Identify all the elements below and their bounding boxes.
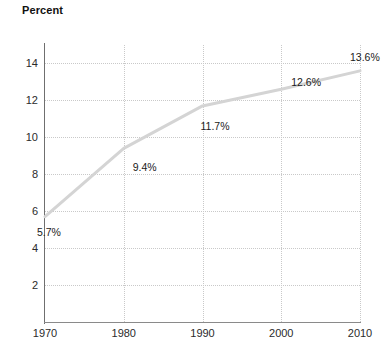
y-tick-label: 8 [12,168,38,180]
y-axis-line [44,43,45,324]
y-tick-label: 4 [12,242,38,254]
line-chart: Percent 2468101214 5.7%9.4%11.7%12.6%13.… [0,0,382,349]
y-tick-label: 6 [12,205,38,217]
data-point-label: 12.6% [291,76,321,88]
data-point-label: 5.7% [37,226,61,238]
y-tick-label: 2 [12,279,38,291]
x-tick-label: 2010 [348,327,372,339]
y-tick-label: 14 [12,57,38,69]
x-tick-label: 1990 [190,327,214,339]
data-point-label: 11.7% [201,120,230,132]
data-point-label: 9.4% [133,161,157,173]
x-axis-line [44,322,361,323]
y-tick-label: 10 [12,131,38,143]
gridline-vertical [281,45,282,322]
gridline-vertical [360,45,361,322]
gridline-vertical [203,45,204,322]
y-tick-label: 12 [12,94,38,106]
x-tick-label: 1980 [112,327,136,339]
data-point-label: 13.6% [350,51,380,63]
y-axis-tick-labels: 2468101214 [8,0,38,349]
x-tick-label: 1970 [33,327,57,339]
x-tick-label: 2000 [269,327,293,339]
gridline-vertical [124,45,125,322]
